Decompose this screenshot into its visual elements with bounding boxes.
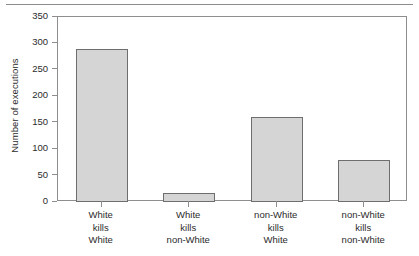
y-tick: 300 bbox=[0, 36, 57, 48]
x-tick-label-line: non-White bbox=[320, 234, 408, 247]
y-tick-label: 200 bbox=[32, 89, 48, 101]
x-tick-label-line: White bbox=[57, 234, 145, 247]
x-axis-ticks bbox=[57, 201, 407, 207]
bar bbox=[76, 49, 128, 202]
y-tick-label: 50 bbox=[37, 169, 48, 181]
x-axis-labels: WhitekillsWhiteWhitekillsnon-Whitenon-Wh… bbox=[57, 209, 407, 255]
bar bbox=[251, 117, 303, 202]
x-tick-label-line: White bbox=[232, 234, 320, 247]
y-tick-label: 300 bbox=[32, 36, 48, 48]
x-tick-mark bbox=[363, 201, 364, 207]
x-tick-label-line: White bbox=[57, 209, 145, 222]
x-tick-label-line: kills bbox=[57, 222, 145, 235]
bar-chart-figure: Number of executions 0501001502002503003… bbox=[0, 0, 419, 256]
y-tick: 200 bbox=[0, 89, 57, 101]
x-tick-mark bbox=[188, 201, 189, 207]
x-tick-label-line: non-White bbox=[232, 209, 320, 222]
x-tick-label: non-Whitekillsnon-White bbox=[320, 209, 408, 247]
y-tick-label: 350 bbox=[32, 10, 48, 22]
bar bbox=[338, 160, 390, 202]
x-tick-label: WhitekillsWhite bbox=[57, 209, 145, 247]
x-tick-label: Whitekillsnon-White bbox=[145, 209, 233, 247]
x-tick-label: non-WhitekillsWhite bbox=[232, 209, 320, 247]
x-tick-label-line: kills bbox=[232, 222, 320, 235]
x-tick-mark bbox=[276, 201, 277, 207]
y-tick: 100 bbox=[0, 142, 57, 154]
y-tick: 250 bbox=[0, 63, 57, 75]
y-tick: 50 bbox=[0, 169, 57, 181]
bar-series bbox=[58, 17, 408, 202]
y-tick: 150 bbox=[0, 116, 57, 128]
x-tick-label-line: kills bbox=[320, 222, 408, 235]
plot-area bbox=[57, 16, 407, 201]
y-axis-ticks: 050100150200250300350 bbox=[0, 0, 57, 256]
page-top-rule bbox=[6, 4, 413, 5]
y-tick-label: 150 bbox=[32, 116, 48, 128]
y-tick: 350 bbox=[0, 10, 57, 22]
y-tick-label: 100 bbox=[32, 142, 48, 154]
y-tick-label: 250 bbox=[32, 63, 48, 75]
x-tick-label-line: non-White bbox=[320, 209, 408, 222]
x-tick-label-line: White bbox=[145, 209, 233, 222]
x-tick-mark bbox=[101, 201, 102, 207]
y-tick: 0 bbox=[0, 195, 57, 207]
x-tick-label-line: kills bbox=[145, 222, 233, 235]
y-tick-label: 0 bbox=[43, 195, 48, 207]
x-tick-label-line: non-White bbox=[145, 234, 233, 247]
